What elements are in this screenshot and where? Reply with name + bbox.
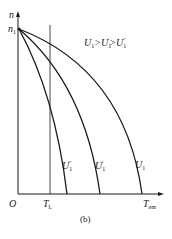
origin-label-text: O (9, 198, 16, 209)
curve-label-sub: 1 (142, 165, 145, 171)
curve-label-u1: U1 (135, 160, 145, 171)
curve-label-sub: 1 (69, 166, 72, 172)
origin-label: O (9, 199, 16, 209)
tl-label-sub: L (49, 204, 53, 210)
y-axis-arrow-icon (16, 11, 20, 17)
curve-label-u1-prime: U1' (95, 160, 103, 172)
figure-caption: (b) (80, 214, 91, 224)
x-axis-arrow-icon (158, 192, 164, 196)
y-axis-label: n (9, 10, 14, 20)
n1-label-sub: 1 (13, 29, 16, 35)
tl-label: TL (43, 199, 52, 210)
legend-part: 1 (123, 43, 126, 49)
curve-u1 (19, 29, 142, 194)
tem-label-sub: em (149, 204, 156, 210)
tem-label: Tem (143, 199, 156, 210)
curve-label-sub: 1 (102, 166, 105, 172)
curve-label-u1-double-prime: U1'' (62, 160, 71, 172)
y-axis-label-text: n (9, 9, 14, 20)
legend-part: >U (94, 37, 108, 48)
legend-part: >U (109, 37, 123, 48)
legend: U1>U1'>U1'' (84, 37, 125, 49)
n1-label: n1 (8, 24, 16, 35)
